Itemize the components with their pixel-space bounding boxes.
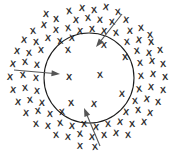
x-marker-outside: X (65, 132, 72, 142)
x-marker-outside: X (160, 85, 167, 95)
x-marker-outside: X (65, 6, 72, 17)
x-marker-outside: X (29, 26, 36, 37)
x-marker-outside: X (26, 95, 33, 106)
x-marker-outside: X (38, 45, 45, 55)
x-marker-outside: X (53, 14, 60, 24)
x-marker-inside: X (64, 45, 71, 56)
x-marker-outside: X (23, 108, 30, 118)
x-marker-outside: X (33, 73, 40, 83)
x-marker-inside: X (122, 52, 129, 62)
x-marker-outside: X (97, 15, 104, 25)
x-marker-outside: X (116, 117, 123, 128)
x-marker-outside: X (143, 94, 150, 105)
inward-arrow-bottom-head (84, 108, 90, 117)
x-marker-outside: X (9, 59, 16, 70)
x-marker-outside: X (112, 128, 119, 139)
x-marker-outside: X (122, 15, 129, 26)
x-marker-outside: X (129, 119, 136, 129)
x-marker-outside: X (109, 17, 116, 27)
x-marker-outside: X (9, 85, 16, 96)
x-marker-outside: X (47, 109, 54, 119)
markers-inside-group: XXXXXXXX (64, 40, 128, 109)
x-marker-outside: X (112, 28, 119, 39)
x-marker-outside: X (155, 97, 162, 107)
x-marker-outside: X (137, 71, 144, 82)
x-marker-outside: X (53, 25, 60, 35)
x-marker-outside: X (7, 72, 14, 82)
x-marker-outside: X (162, 72, 169, 82)
x-marker-outside: X (69, 121, 76, 131)
x-marker-outside: X (141, 117, 148, 127)
diagram-container: XXXXXXXXXXXXXXXXXXXXXXXXXXXXXXXXXXXXXXXX… (0, 0, 174, 152)
x-marker-outside: X (127, 26, 134, 36)
x-marker-outside: X (148, 82, 155, 92)
x-marker-inside: X (66, 72, 72, 82)
boundary-group (44, 33, 134, 123)
x-marker-outside: X (22, 83, 29, 93)
x-marker-outside: X (13, 46, 20, 57)
x-marker-outside: X (133, 46, 140, 57)
x-marker-outside: X (137, 58, 144, 68)
x-marker-outside: X (125, 130, 132, 140)
x-marker-outside: X (81, 119, 88, 129)
x-marker-outside: X (101, 130, 108, 140)
x-marker-outside: X (135, 35, 142, 46)
x-marker-outside: X (122, 107, 129, 118)
x-marker-outside: X (160, 59, 167, 69)
x-marker-outside: X (40, 20, 47, 31)
x-marker-outside: X (43, 9, 50, 19)
x-marker-outside: X (20, 35, 27, 46)
x-marker-outside: X (138, 23, 145, 33)
x-marker-outside: X (69, 33, 76, 43)
x-marker-outside: X (78, 3, 85, 14)
x-marker-outside: X (21, 57, 28, 68)
x-marker-outside: X (73, 15, 80, 25)
x-marker-inside: X (68, 98, 75, 108)
diagram-canvas: XXXXXXXXXXXXXXXXXXXXXXXXXXXXXXXXXXXXXXXX… (0, 0, 174, 152)
x-marker-outside: X (45, 121, 52, 131)
markers-outside-group: XXXXXXXXXXXXXXXXXXXXXXXXXXXXXXXXXXXXXXXX… (7, 2, 169, 152)
x-marker-outside: X (34, 86, 41, 96)
x-marker-outside: X (14, 97, 21, 108)
x-marker-outside: X (76, 129, 83, 140)
x-marker-outside: X (34, 106, 41, 117)
x-marker-outside: X (135, 105, 142, 115)
x-marker-outside: X (32, 119, 39, 130)
x-marker-outside: X (84, 13, 91, 24)
x-marker-inside: X (119, 89, 126, 99)
x-marker-outside: X (45, 33, 52, 43)
x-marker-inside: X (91, 99, 98, 109)
x-marker-outside: X (52, 130, 59, 141)
x-marker-outside: X (34, 60, 41, 70)
x-marker-outside: X (123, 37, 130, 48)
x-marker-outside: X (91, 142, 98, 152)
x-marker-outside: X (135, 84, 142, 95)
boundary-circle (44, 33, 134, 123)
x-marker-outside: X (102, 2, 110, 13)
x-marker-outside: X (91, 5, 98, 15)
x-marker-outside: X (157, 45, 164, 55)
x-marker-inside: X (97, 70, 104, 80)
x-marker-outside: X (56, 118, 63, 129)
x-marker-outside: X (148, 56, 155, 67)
inward-arrow-left-head (51, 70, 60, 76)
x-marker-outside: X (77, 141, 84, 151)
x-marker-outside: X (149, 69, 156, 80)
x-marker-outside: X (147, 30, 154, 40)
x-marker-outside: X (64, 23, 72, 34)
